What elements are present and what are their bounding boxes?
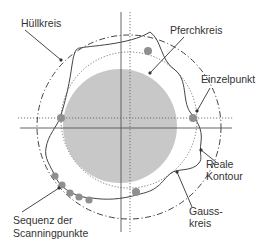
scan-point: [85, 196, 92, 203]
gausskreis-leader-tip: [176, 171, 178, 173]
pferchkreis-leader-tip: [149, 72, 151, 74]
reale-kontour-label-2: Kontour: [206, 170, 243, 182]
huellkreis-label: Hüllkreis: [21, 17, 61, 29]
gausskreis-label-2: kreis: [189, 217, 211, 229]
einzelpunkt-label: Einzelpunkt: [201, 73, 255, 85]
einzelpunkt-dot: [189, 114, 197, 122]
sequenz-label-1: Sequenz der: [13, 214, 73, 226]
point-bottom: [132, 188, 140, 196]
reale-kontour-label-1: Reale: [206, 158, 234, 170]
point-left: [57, 114, 65, 122]
pferchkreis-label: Pferchkreis: [170, 24, 223, 36]
huellkreis-leader-tip: [60, 59, 62, 61]
huellkreis-leader: [25, 30, 61, 60]
sequenz-leader-tip: [58, 187, 60, 189]
form-measurement-diagram: Hüllkreis Pferchkreis Einzelpunkt Reale …: [0, 0, 261, 251]
gausskreis-leader: [177, 172, 192, 207]
pferchkreis-leader: [150, 37, 184, 73]
point-top: [144, 47, 152, 55]
pferchkreis-disc: [63, 69, 177, 183]
sequenz-leader: [22, 188, 59, 212]
einzelpunkt-leader-tip: [196, 110, 198, 112]
sequenz-label-2: Scanningpunkte: [13, 227, 88, 239]
gausskreis-label-1: Gauss-: [189, 205, 223, 217]
einzelpunkt-leader: [197, 88, 210, 111]
reale-kontour-leader-tip: [200, 149, 202, 151]
scan-point: [66, 189, 73, 196]
scan-point: [75, 193, 82, 200]
scan-point: [51, 172, 58, 179]
